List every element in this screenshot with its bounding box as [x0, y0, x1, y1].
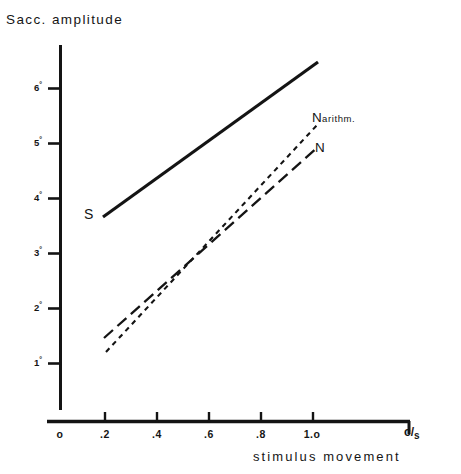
series-label-N-arithm-sub: arithm. — [322, 113, 355, 124]
y-tick-label-2: 2° — [18, 301, 42, 313]
y-tick-label-5: 5° — [18, 136, 42, 148]
x-tick-label-0.6: .6 — [192, 428, 226, 440]
y-tick-label-6: 6° — [18, 81, 42, 93]
y-axis-title: Sacc. amplitude — [6, 12, 123, 27]
degree-sign-icon: ° — [39, 246, 42, 253]
chart-plot-area — [0, 0, 461, 474]
series-line-S — [103, 62, 318, 217]
degree-sign-icon: ° — [39, 301, 42, 308]
y-tick-label-1: 1° — [18, 356, 42, 368]
x-tick-label-0.4: .4 — [140, 428, 174, 440]
y-tick-label-3: 3° — [18, 246, 42, 258]
x-axis-unit-label: c/s — [404, 425, 420, 439]
series-label-N: N — [315, 140, 325, 155]
series-label-N-arithm: Narithm. — [312, 110, 355, 125]
x-unit-denominator: s — [414, 430, 420, 441]
x-unit-numerator: c — [404, 425, 411, 439]
x-axis-title: stimulus movement — [253, 449, 401, 464]
series-line-N-arithm — [106, 124, 318, 352]
degree-sign-icon: ° — [39, 81, 42, 88]
x-tick-label-0.2: .2 — [88, 428, 122, 440]
x-tick-label-1.0: 1.o — [295, 428, 329, 440]
degree-sign-icon: ° — [39, 191, 42, 198]
chart-figure: Sacc. amplitude 6° 5° 4° 3° 2° 1° o .2 .… — [0, 0, 461, 474]
degree-sign-icon: ° — [39, 356, 42, 363]
x-tick-label-0: o — [43, 428, 77, 440]
series-label-S: S — [84, 206, 94, 222]
series-line-N — [104, 147, 318, 338]
y-tick-label-4: 4° — [18, 191, 42, 203]
degree-sign-icon: ° — [39, 136, 42, 143]
x-tick-label-0.8: .8 — [244, 428, 278, 440]
series-label-N-arithm-main: N — [312, 110, 322, 125]
